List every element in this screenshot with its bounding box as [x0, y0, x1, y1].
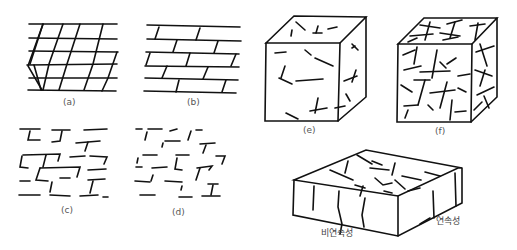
panel-c-drawing [19, 129, 108, 197]
panel-b-label: (b) [187, 97, 200, 107]
panel-b-drawing [144, 25, 241, 93]
joint-continuity-diagram [0, 0, 517, 250]
panel-e-drawing [265, 16, 366, 121]
panel-c-label: (c) [61, 205, 73, 215]
panel-a-drawing [27, 24, 118, 91]
panel-a-label: (a) [63, 97, 76, 107]
panel-f-drawing [397, 18, 497, 122]
panel-f-label: (f) [435, 126, 445, 136]
continuity-label: 연속성 [436, 214, 460, 227]
panel-d-label: (d) [172, 207, 185, 217]
panel-d-drawing [135, 129, 225, 197]
panel-e-label: (e) [303, 125, 316, 135]
discontinuity-label: 비연속성 [321, 226, 353, 239]
